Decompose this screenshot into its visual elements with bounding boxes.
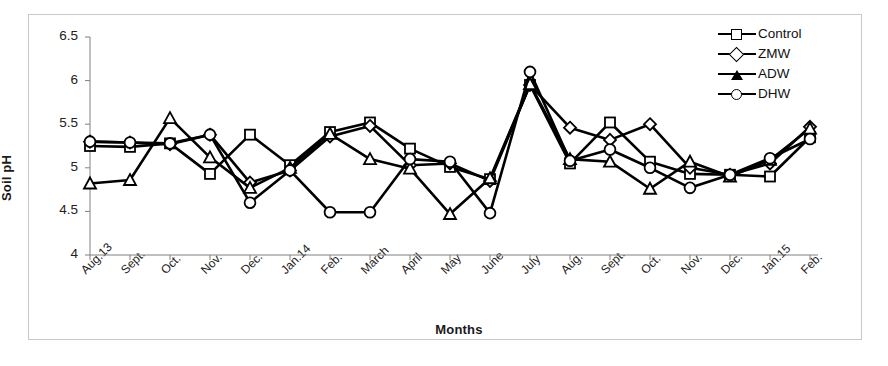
data-point-square-marker [245, 130, 255, 140]
data-point-circle-marker [485, 208, 496, 219]
data-point-circle-marker [85, 136, 96, 147]
data-point-triangle-marker [684, 156, 696, 167]
legend-key-square-icon [718, 26, 756, 42]
data-point-circle-marker [365, 207, 376, 218]
chart-container: Soil pH Months 44.555.566.5 Aug.13Sept.O… [0, 0, 888, 366]
legend-key-diamond-icon [718, 46, 756, 62]
data-point-circle-marker [725, 169, 736, 180]
data-point-circle-marker [405, 154, 416, 165]
data-point-circle-marker [245, 197, 256, 208]
legend-label: DHW [758, 86, 790, 101]
data-point-circle-marker [445, 156, 456, 167]
series-line [90, 84, 810, 214]
legend-item-control: Control [718, 24, 802, 43]
legend-label: Control [758, 26, 802, 41]
data-point-circle-marker [565, 155, 576, 166]
chart-legend: Control ZMW ADW DHW [718, 24, 802, 103]
legend-item-dhw: DHW [718, 84, 802, 103]
legend-item-adw: ADW [718, 64, 802, 83]
data-point-circle-marker [125, 137, 136, 148]
series-adw [84, 78, 816, 219]
data-point-triangle-marker [364, 153, 376, 164]
data-point-circle-marker [205, 129, 216, 140]
data-point-square-marker [405, 144, 415, 154]
data-point-circle-marker [325, 207, 336, 218]
legend-key-circle-icon [718, 86, 756, 102]
data-point-circle-marker [645, 162, 656, 173]
data-point-square-marker [605, 117, 615, 127]
legend-label: ZMW [758, 46, 790, 61]
series-line [90, 72, 810, 213]
data-point-circle-marker [685, 182, 696, 193]
series-layer [84, 66, 816, 219]
data-point-square-marker [765, 172, 775, 182]
data-point-circle-marker [165, 138, 176, 149]
legend-label: ADW [758, 66, 790, 81]
data-point-triangle-marker [164, 112, 176, 123]
legend-item-zmw: ZMW [718, 44, 802, 63]
axis-layer [85, 37, 818, 260]
data-point-circle-marker [765, 153, 776, 164]
data-point-circle-marker [605, 144, 616, 155]
data-point-circle-marker [285, 165, 296, 176]
data-point-circle-marker [805, 134, 816, 145]
legend-key-triangle-icon [718, 66, 756, 82]
data-point-square-marker [205, 169, 215, 179]
data-point-circle-marker [525, 66, 536, 77]
